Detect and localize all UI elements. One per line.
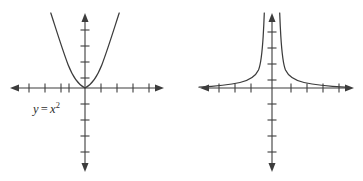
label-equals-sign: = bbox=[39, 102, 50, 116]
label-variable-y: y bbox=[33, 102, 39, 116]
parabola-plot-svg bbox=[0, 0, 182, 181]
figure-pair: y=x2 bbox=[0, 0, 363, 181]
x-axis-group bbox=[10, 84, 164, 93]
x-axis-arrow-right bbox=[155, 85, 164, 92]
inverse-square-left-branch bbox=[199, 13, 264, 87]
inverse-square-right-branch bbox=[280, 13, 345, 87]
y-axis-arrow-down bbox=[269, 163, 276, 172]
inverse-square-plot-svg bbox=[182, 0, 363, 181]
y-axis-arrow-up bbox=[269, 13, 276, 22]
x-axis-arrow-left bbox=[200, 85, 209, 92]
equation-label-parabola: y=x2 bbox=[33, 100, 60, 117]
graph-panel-inverse-square: y=1/x2 bbox=[182, 0, 363, 181]
y-axis-group bbox=[268, 13, 277, 172]
x-axis-arrow-left bbox=[10, 85, 19, 92]
y-axis-arrow-up bbox=[82, 13, 89, 22]
y-axis-group bbox=[81, 13, 90, 172]
y-axis-arrow-down bbox=[82, 163, 89, 172]
label-exponent: 2 bbox=[56, 100, 60, 110]
graph-panel-parabola: y=x2 bbox=[0, 0, 182, 181]
x-axis-arrow-right bbox=[345, 85, 354, 92]
